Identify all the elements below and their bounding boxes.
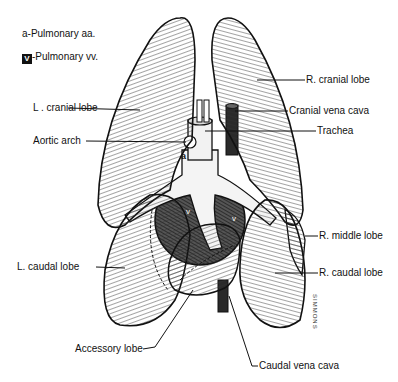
artist-signature: SIMMONS [312, 294, 318, 330]
label-r-caudal-lobe: R. caudal lobe [319, 267, 383, 279]
vein-mark: v [186, 206, 190, 218]
artery-mark: a [181, 150, 186, 162]
vein-symbol: V [22, 54, 32, 64]
label-r-middle-lobe: R. middle lobe [319, 230, 383, 242]
legend-arteries: a-Pulmonary aa. [22, 28, 95, 40]
label-trachea: Trachea [317, 125, 353, 137]
label-caudal-vena-cava: Caudal vena cava [259, 360, 339, 372]
vein-mark: v [232, 213, 236, 225]
label-cranial-vena-cava: Cranial vena cava [289, 105, 369, 117]
legend-veins: V-Pulmonary vv. [22, 51, 98, 64]
label-l-caudal-lobe: L. caudal lobe [17, 261, 79, 273]
label-accessory-lobe: Accessory lobe [75, 343, 143, 355]
label-aortic-arch: Aortic arch [33, 135, 81, 147]
label-l-cranial-lobe: L . cranial lobe [33, 102, 98, 114]
label-r-cranial-lobe: R. cranial lobe [306, 74, 370, 86]
